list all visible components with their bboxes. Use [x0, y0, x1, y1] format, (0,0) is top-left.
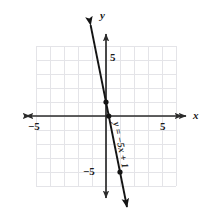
x-tick-label-negative-5: −5 — [28, 121, 40, 132]
data-point — [103, 99, 108, 104]
y-axis-label: y — [100, 10, 105, 21]
y-tick-label-negative-5: −5 — [83, 166, 95, 177]
x-axis-label: x — [193, 110, 199, 121]
x-tick-label-5: 5 — [160, 121, 166, 132]
coordinate-plane-svg — [0, 0, 214, 214]
chart-canvas: −5 5 5 −5 x y y = −5x + 1 — [0, 0, 214, 214]
data-point — [117, 169, 122, 174]
y-tick-label-5: 5 — [110, 52, 116, 63]
data-point — [106, 113, 111, 118]
